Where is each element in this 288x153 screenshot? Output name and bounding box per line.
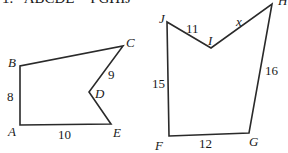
vertex-label-j: J xyxy=(159,11,166,26)
side-length-fj: 15 xyxy=(152,76,165,91)
polygon-abcde: A B C D E 8 9 10 xyxy=(7,35,135,142)
polygon-abcde-outline xyxy=(20,46,123,125)
side-length-ij: 11 xyxy=(186,21,199,36)
vertex-label-f: F xyxy=(154,138,164,153)
side-length-gh: 16 xyxy=(265,63,279,78)
vertex-label-e: E xyxy=(112,125,121,140)
side-length-cd: 9 xyxy=(108,67,115,82)
vertex-label-b: B xyxy=(8,55,16,70)
vertex-label-d: D xyxy=(94,86,105,101)
vertex-label-h: H xyxy=(277,0,288,8)
vertex-label-g: G xyxy=(249,134,259,149)
side-length-ab: 8 xyxy=(7,89,14,104)
polygon-fghij: F G H I J 15 11 x 16 12 xyxy=(152,0,288,153)
side-length-hi-unknown: x xyxy=(235,14,242,29)
polygon-fghij-outline xyxy=(167,4,272,136)
vertex-label-a: A xyxy=(7,124,16,139)
side-length-ae: 10 xyxy=(58,127,71,142)
side-length-fg: 12 xyxy=(199,136,212,151)
vertex-label-c: C xyxy=(126,35,135,50)
vertex-label-i: I xyxy=(207,33,213,48)
similar-polygons-figure: A B C D E 8 9 10 F G H I J 15 11 x 16 12 xyxy=(0,0,288,153)
